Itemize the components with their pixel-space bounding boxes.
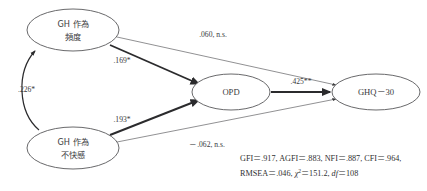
fit-rmsea: RMSEA＝.046,: [240, 169, 295, 178]
node-ghq30[interactable]: GHQ－30: [332, 74, 420, 110]
node-gh-displeasure-label-line2: 不快感: [61, 150, 85, 160]
path-diagram-container: GH 作為 頻度 GH 作為 不快感 OPD GHQ－30 .060, n.s.…: [0, 0, 427, 191]
fit-statistics-line-2: RMSEA＝.046, χ2＝151.2, df＝108: [240, 168, 358, 178]
node-ghq30-label: GHQ－30: [358, 87, 394, 97]
node-gh-displeasure[interactable]: GH 作為 不快感: [27, 127, 119, 169]
edge-label-frequency-to-ghq30: .060, n.s.: [199, 30, 227, 39]
node-gh-frequency-shape: [27, 9, 119, 51]
edge-label-opd-to-ghq30: .425**: [291, 77, 312, 86]
node-gh-frequency-label-line1: GH 作為: [57, 19, 88, 29]
edge-label-frequency-to-opd: .169*: [113, 56, 130, 65]
edge-label-displeasure-to-opd: .193*: [113, 115, 130, 124]
fit-df-value: ＝108: [338, 169, 358, 178]
edge-label-correlation: .226*: [18, 85, 35, 94]
node-gh-displeasure-label-line1: GH 作為: [57, 137, 88, 147]
node-opd[interactable]: OPD: [192, 74, 270, 110]
node-opd-label: OPD: [222, 87, 239, 97]
node-gh-frequency-label-line2: 頻度: [65, 32, 81, 42]
diagram-canvas: GH 作為 頻度 GH 作為 不快感 OPD GHQ－30 .060, n.s.…: [0, 0, 427, 191]
edge-label-displeasure-to-ghq30: －.062, n.s.: [189, 140, 225, 149]
fit-chi-value: ＝151.2,: [301, 169, 332, 178]
node-gh-frequency[interactable]: GH 作為 頻度: [27, 9, 119, 51]
node-gh-displeasure-shape: [27, 127, 119, 169]
fit-statistics-line-1: GFI＝.917, AGFI＝.883, NFI＝.887, CFI＝.964,: [240, 154, 401, 163]
